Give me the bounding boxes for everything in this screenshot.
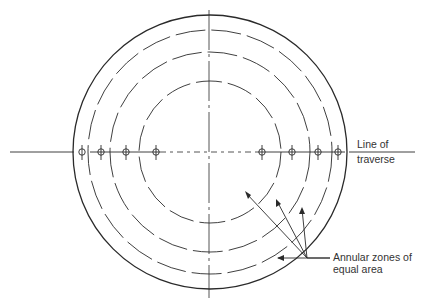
zone-leader-arrows xyxy=(246,193,330,258)
traverse-label-line2: traverse xyxy=(357,153,395,165)
probe-points-left xyxy=(79,145,159,160)
traverse-label-line1: Line of xyxy=(357,138,395,150)
zones-label-line1: Annular zones of xyxy=(333,251,412,263)
zones-label-line2: equal area xyxy=(333,263,412,275)
probe-points-right xyxy=(259,145,341,160)
zones-label: Annular zones of equal area xyxy=(333,251,412,275)
traverse-label: Line of traverse xyxy=(357,138,395,165)
